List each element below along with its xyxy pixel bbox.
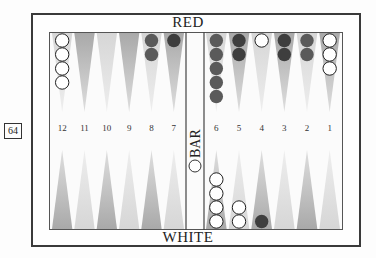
red-checker[interactable] <box>210 62 223 75</box>
bar[interactable]: BAR <box>188 129 203 172</box>
point-bottom[interactable] <box>74 150 94 229</box>
point-number-label: 7 <box>172 123 177 133</box>
point-bottom[interactable] <box>319 150 340 229</box>
red-checker[interactable] <box>145 34 158 47</box>
point-bottom[interactable] <box>297 150 318 229</box>
white-checker[interactable] <box>255 34 268 47</box>
white-checker[interactable] <box>210 173 223 186</box>
point-number-label: 6 <box>214 123 219 133</box>
point-number-label: 3 <box>282 123 287 133</box>
point-top-9[interactable] <box>119 33 139 112</box>
red-checker[interactable] <box>278 34 291 47</box>
point-number-label: 1 <box>327 123 332 133</box>
point-bottom[interactable] <box>274 150 295 229</box>
red-checker[interactable] <box>145 48 158 61</box>
backgammon-board: 121110987654321 BAR <box>0 0 376 258</box>
point-bottom[interactable] <box>141 150 161 229</box>
white-checker[interactable] <box>232 201 245 214</box>
point-bottom[interactable] <box>164 150 184 229</box>
point-top-10[interactable] <box>97 33 117 112</box>
white-checker[interactable] <box>55 76 68 89</box>
point-bottom[interactable] <box>52 150 72 229</box>
white-checker[interactable] <box>55 62 68 75</box>
white-checker[interactable] <box>55 48 68 61</box>
red-checker[interactable] <box>300 48 313 61</box>
point-number-label: 8 <box>149 123 154 133</box>
red-checker[interactable] <box>232 34 245 47</box>
red-checker[interactable] <box>210 76 223 89</box>
white-checker[interactable] <box>210 215 223 228</box>
white-checker[interactable] <box>323 48 336 61</box>
red-checker[interactable] <box>232 48 245 61</box>
point-number-label: 5 <box>237 123 242 133</box>
point-number-label: 11 <box>80 123 89 133</box>
red-checker[interactable] <box>167 34 180 47</box>
white-checker[interactable] <box>323 62 336 75</box>
red-checker[interactable] <box>210 48 223 61</box>
white-checker[interactable] <box>55 34 68 47</box>
point-bottom[interactable] <box>119 150 139 229</box>
red-checker[interactable] <box>210 90 223 103</box>
bar-label: BAR <box>188 129 203 158</box>
point-bottom[interactable] <box>97 150 117 229</box>
bar-circle-icon <box>189 160 201 172</box>
white-checker[interactable] <box>210 187 223 200</box>
point-top-11[interactable] <box>74 33 94 112</box>
white-checker[interactable] <box>232 215 245 228</box>
point-number-label: 10 <box>102 123 112 133</box>
point-number-label: 2 <box>305 123 310 133</box>
point-number-label: 4 <box>259 123 264 133</box>
red-checker[interactable] <box>210 34 223 47</box>
red-checker[interactable] <box>278 48 291 61</box>
white-checker[interactable] <box>323 34 336 47</box>
point-number-label: 9 <box>127 123 132 133</box>
point-number-label: 12 <box>58 123 67 133</box>
red-checker[interactable] <box>255 215 268 228</box>
white-checker[interactable] <box>210 201 223 214</box>
red-checker[interactable] <box>300 34 313 47</box>
